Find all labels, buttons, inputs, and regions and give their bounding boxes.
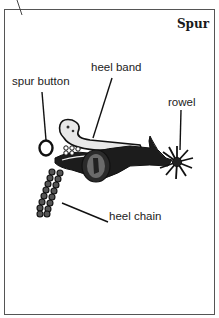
label-spur-button: spur button [12, 76, 70, 88]
label-rowel: rowel [168, 97, 195, 109]
leader-rowel [180, 110, 181, 150]
spur-illustration [0, 0, 219, 318]
pointer-line [17, 0, 22, 15]
spur-button-shape [40, 141, 53, 156]
leader-heel-chain [62, 203, 108, 222]
label-heel-band: heel band [91, 62, 142, 74]
leader-spur-button [42, 92, 46, 140]
figure-title: Spur [177, 17, 209, 31]
label-heel-chain: heel chain [109, 211, 161, 223]
heel-chain-shape [37, 169, 63, 217]
leader-heel-band [93, 78, 112, 138]
